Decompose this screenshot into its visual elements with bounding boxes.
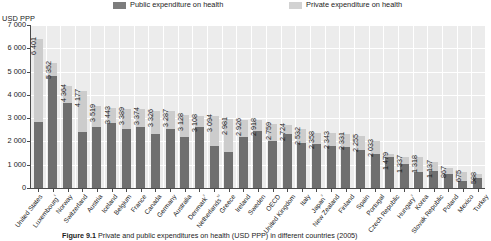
bar-segment-public[interactable] [356,150,365,188]
bar-segment-public[interactable] [224,152,233,188]
bar-value-label: 5 352 [45,61,53,79]
bar-group[interactable]: 2 358 [309,25,324,188]
stacked-bar[interactable]: 2 926 [239,120,248,188]
stacked-bar[interactable]: 1 318 [414,157,423,188]
bar-segment-public[interactable] [180,137,189,188]
bar-value-label: 3 326 [148,109,156,127]
bar-segment-public[interactable] [239,137,248,188]
stacked-bar[interactable]: 1 479 [385,154,394,188]
bar-group[interactable]: 2 759 [265,25,280,188]
stacked-bar[interactable]: 675 [458,172,467,188]
bar-group[interactable]: 675 [456,25,471,188]
bar-segment-public[interactable] [341,147,350,188]
bar-group[interactable]: 2 343 [324,25,339,188]
bar-segment-public[interactable] [151,134,160,188]
stacked-bar[interactable]: 1 137 [429,162,438,188]
legend-label-public: Public expenditure on health [130,1,223,9]
bar-segment-public[interactable] [92,127,101,188]
stacked-bar[interactable]: 3 108 [195,116,204,188]
stacked-bar[interactable]: 2 759 [268,124,277,188]
bar-segment-public[interactable] [107,123,116,188]
stacked-bar[interactable]: 867 [444,168,453,188]
bar-group[interactable]: 3 287 [163,25,178,188]
stacked-bar[interactable]: 2 343 [327,133,336,188]
bar-segment-public[interactable] [210,146,219,188]
bar-segment-public[interactable] [34,122,43,188]
y-axis-tick-label: 5 000 [0,68,26,76]
bar-segment-public[interactable] [48,76,57,188]
bar-value-label: 3 374 [133,107,141,125]
bar-group[interactable]: 2 918 [251,25,266,188]
bar-value-label: 3 389 [119,107,127,125]
bar-segment-public[interactable] [166,129,175,188]
bar-segment-public[interactable] [283,134,292,188]
bar-group[interactable]: 3 374 [133,25,148,188]
bar-group[interactable]: 1 137 [426,25,441,188]
legend-item-public: Public expenditure on health [113,1,223,9]
stacked-bar[interactable]: 3 128 [180,115,189,188]
bar-group[interactable]: 867 [441,25,456,188]
stacked-bar[interactable]: 2 255 [356,136,365,189]
bar-group[interactable]: 2 981 [221,25,236,188]
bar-segment-public[interactable] [268,141,277,188]
figure-caption-text: Private and public expenditures on healt… [98,232,358,240]
stacked-bar[interactable]: 2 358 [312,133,321,188]
y-axis-tick-label: 1 000 [0,161,26,169]
stacked-bar[interactable]: 2 033 [371,141,380,188]
bar-value-label: 867 [441,166,449,178]
bar-segment-public[interactable] [297,143,306,188]
bar-segment-public[interactable] [371,154,380,188]
stacked-bar[interactable]: 3 287 [166,111,175,188]
bar-group[interactable]: 6 401 [31,25,46,188]
bar-segment-public[interactable] [122,129,131,188]
stacked-bar[interactable]: 5 352 [48,63,57,188]
stacked-bar[interactable]: 2 724 [283,125,292,188]
bar-group[interactable]: 3 326 [148,25,163,188]
bar-group[interactable]: 1 318 [412,25,427,188]
bar-group[interactable]: 2 255 [353,25,368,188]
stacked-bar[interactable]: 6 401 [34,39,43,188]
bar-group[interactable]: 2 331 [338,25,353,188]
stacked-bar[interactable]: 3 094 [210,116,219,188]
bar-group[interactable]: 4 177 [75,25,90,188]
legend-label-private: Private expenditure on health [306,1,402,9]
bar-group[interactable]: 2 926 [236,25,251,188]
bar-segment-public[interactable] [136,127,145,188]
bar-group[interactable]: 3 108 [192,25,207,188]
stacked-bar[interactable]: 3 374 [136,109,145,188]
stacked-bar[interactable]: 1 337 [400,157,409,188]
bar-segment-public[interactable] [63,103,72,188]
stacked-bar[interactable]: 3 326 [151,111,160,188]
bar-group[interactable]: 2 532 [295,25,310,188]
bar-group[interactable]: 2 724 [280,25,295,188]
legend-swatch-public-icon [113,2,126,9]
bar-group[interactable]: 3 094 [207,25,222,188]
stacked-bar[interactable]: 2 331 [341,134,350,188]
stacked-bar[interactable]: 2 532 [297,129,306,188]
bar-group[interactable]: 588 [470,25,485,188]
bar-group[interactable]: 3 128 [177,25,192,188]
stacked-bar[interactable]: 588 [473,174,482,188]
bar-group[interactable]: 3 389 [119,25,134,188]
bar-segment-public[interactable] [414,172,423,188]
bar-segment-public[interactable] [253,131,262,188]
bar-segment-public[interactable] [312,144,321,188]
bar-group[interactable]: 3 519 [90,25,105,188]
bar-segment-public[interactable] [327,146,336,188]
stacked-bar[interactable]: 3 389 [122,109,131,188]
stacked-bar[interactable]: 4 177 [78,91,87,188]
stacked-bar[interactable]: 3 519 [92,106,101,188]
stacked-bar[interactable]: 2 918 [253,120,262,188]
bar-segment-public[interactable] [195,127,204,188]
bar-group[interactable]: 2 033 [368,25,383,188]
bar-series-group: 6 4015 3524 3644 1773 5193 4433 3893 374… [31,25,485,188]
stacked-bar[interactable]: 4 364 [63,86,72,188]
stacked-bar[interactable]: 2 981 [224,119,233,188]
bar-segment-public[interactable] [78,132,87,188]
bar-value-label: 3 287 [162,109,170,127]
bar-value-label: 2 759 [265,122,273,140]
bar-value-label: 2 724 [280,123,288,141]
bar-group[interactable]: 5 352 [46,25,61,188]
stacked-bar[interactable]: 3 443 [107,108,116,188]
bar-value-label: 3 094 [206,114,214,132]
